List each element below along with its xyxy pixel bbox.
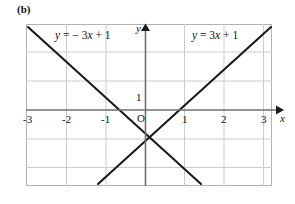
x-axis-label: x <box>280 113 285 124</box>
equation-label-left: y = − 3x + 1 <box>55 30 111 42</box>
x-tick-label-1: 1 <box>182 114 188 125</box>
equation-right-constant: 1 <box>232 29 238 41</box>
x-tick-label-2: 2 <box>221 114 227 125</box>
x-tick-label-minus-1: -1 <box>101 114 110 125</box>
x-tick-label-minus-2: -2 <box>62 114 71 125</box>
y-intercept-label: 1 <box>136 92 142 103</box>
x-tick-label-minus-3: -3 <box>23 114 32 125</box>
part-label: (b) <box>17 3 30 15</box>
y-axis-label: y <box>136 23 141 34</box>
plot-area: y = − 3x + 1 y = 3x + 1 y x 1 O -3 -2 -1… <box>26 24 272 186</box>
origin-label: O <box>137 113 145 124</box>
y-axis-arrowhead <box>141 24 150 32</box>
axes-layer <box>26 24 288 186</box>
x-tick-label-3: 3 <box>261 114 267 125</box>
equation-label-right: y = 3x + 1 <box>192 30 238 42</box>
figure-container: (b) <box>0 0 295 204</box>
equation-left-constant: 1 <box>105 29 111 41</box>
